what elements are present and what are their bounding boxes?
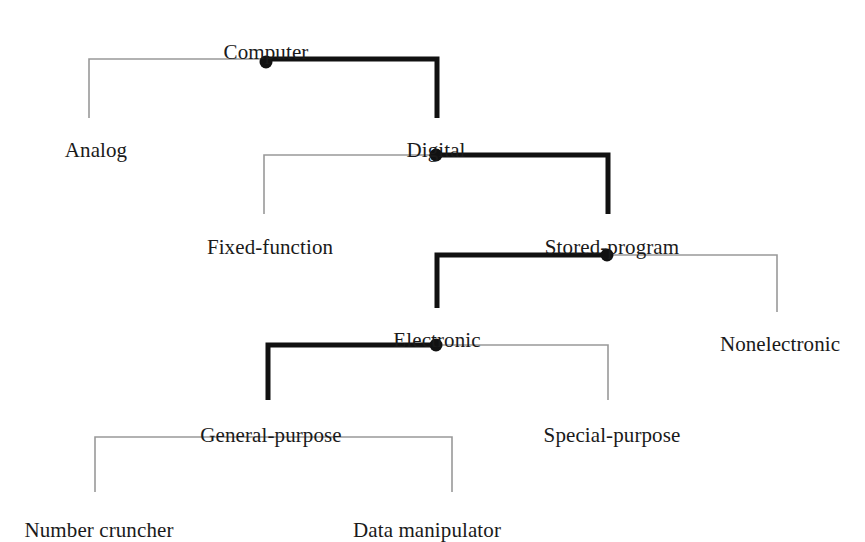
connector-computer-analog xyxy=(89,59,266,118)
connector-stored-program-electronic xyxy=(437,255,607,308)
connector-electronic-special-purpose xyxy=(436,345,608,400)
node-label-general-purpose: General-purpose xyxy=(200,425,341,446)
node-label-analog: Analog xyxy=(65,140,127,161)
connector-electronic-general-purpose xyxy=(268,345,436,400)
tree-connector-layer xyxy=(0,0,865,542)
taxonomy-diagram: ComputerAnalogDigitalFixed-functionStore… xyxy=(0,0,865,542)
connector-digital-fixed-function xyxy=(264,155,436,214)
node-label-computer: Computer xyxy=(224,42,309,63)
node-label-electronic: Electronic xyxy=(393,330,480,351)
node-label-digital: Digital xyxy=(406,140,465,161)
node-label-data-manipulator: Data manipulator xyxy=(353,520,501,541)
node-label-number-cruncher: Number cruncher xyxy=(24,520,173,541)
node-label-stored-program: Stored-program xyxy=(545,237,679,258)
node-label-special-purpose: Special-purpose xyxy=(544,425,681,446)
node-label-fixed-function: Fixed-function xyxy=(207,237,333,258)
node-label-nonelectronic: Nonelectronic xyxy=(720,334,840,355)
connector-stored-program-nonelectronic xyxy=(607,255,777,312)
connector-digital-stored-program xyxy=(436,155,608,214)
connector-computer-digital xyxy=(266,59,437,118)
